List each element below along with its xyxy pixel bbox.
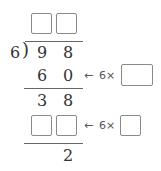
remainder1-ones: 8 [61, 93, 75, 109]
division-bracket: ) [22, 41, 29, 59]
dividend-tens: 9 [35, 45, 49, 61]
step1-product-tens: 6 [35, 68, 49, 84]
subtraction-line-1 [24, 88, 83, 89]
final-remainder: 2 [61, 148, 75, 164]
subtraction-line-2 [24, 143, 83, 144]
step1-hint-arrow-icon: ← [84, 70, 93, 82]
step2-product-ones-box[interactable] [56, 115, 77, 136]
step2-hint-arrow-icon: ← [84, 120, 93, 132]
quotient-tens-box[interactable] [31, 13, 52, 34]
step2-hint-text: 6× [99, 120, 115, 132]
step1-product-ones: 0 [61, 68, 75, 84]
quotient-ones-box[interactable] [56, 13, 77, 34]
step2-product-tens-box[interactable] [31, 115, 52, 136]
step1-multiplier-box[interactable] [121, 64, 153, 86]
divisor: 6 [8, 45, 22, 61]
division-bar [25, 41, 83, 42]
remainder1-tens: 3 [35, 93, 49, 109]
step2-multiplier-box[interactable] [120, 115, 141, 136]
step1-hint-text: 6× [99, 70, 115, 82]
dividend-ones: 8 [61, 45, 75, 61]
